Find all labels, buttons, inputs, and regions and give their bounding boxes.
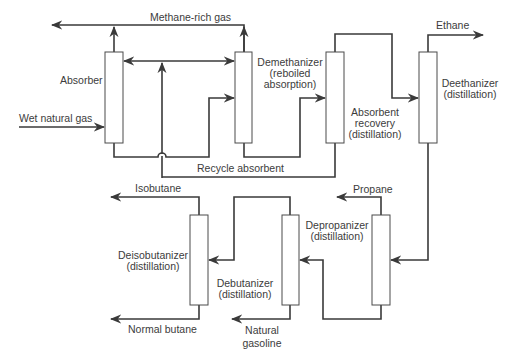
absorber-label: Absorber [60,74,103,86]
isobutane-stream: Isobutane [111,182,199,215]
debutanizer-label-2: (distillation) [218,288,271,300]
wet-natural-gas-label: Wet natural gas [19,112,92,124]
natural-gasoline-stream: Natural gasoline [232,305,290,349]
deisobutanizer-column [190,215,208,305]
deethanizer-column [419,52,437,143]
ethane-label: Ethane [436,19,469,31]
methane-rich-gas-stream: Methane-rich gas [52,11,244,52]
deisobutanizer-label-2: (distillation) [126,260,179,272]
absorber-demethanizer-link [124,61,234,178]
absorber-column [105,52,123,143]
demethanizer-label-3: absorption) [264,78,317,90]
debutanizer-column [282,215,299,305]
wet-natural-gas-stream: Wet natural gas [19,112,104,127]
depropanizer-column [372,215,390,305]
natural-gasoline-label-2: gasoline [242,337,281,349]
depropanizer-bottoms-stream [300,260,381,319]
ethane-stream: Ethane [428,19,483,52]
normal-butane-stream: Normal butane [111,305,199,335]
recycle-absorbent-label: Recycle absorbent [197,162,284,174]
process-flow-diagram: Methane-rich gas Wet natural gas Recycle… [0,0,513,354]
absorbent-recovery-label-3: (distillation) [348,128,401,140]
natural-gasoline-label-1: Natural [245,324,279,336]
normal-butane-label: Normal butane [128,323,197,335]
demethanizer-bottoms-stream [244,98,325,157]
deethanizer-label-2: (distillation) [443,88,496,100]
debutanizer-overhead-stream [209,197,290,260]
deethanizer-bottoms-stream [391,143,428,260]
absorbent-recovery-overhead-stream [335,34,418,98]
demethanizer-column [235,52,252,143]
propane-stream: Propane [337,183,393,215]
depropanizer-label-2: (distillation) [310,230,363,242]
absorber-bottoms-stream [114,98,234,157]
absorbent-recovery-column [326,52,344,143]
methane-rich-gas-label: Methane-rich gas [150,11,231,23]
isobutane-label: Isobutane [135,182,181,194]
recycle-absorbent-stream: Recycle absorbent [162,143,335,177]
propane-label: Propane [353,183,393,195]
